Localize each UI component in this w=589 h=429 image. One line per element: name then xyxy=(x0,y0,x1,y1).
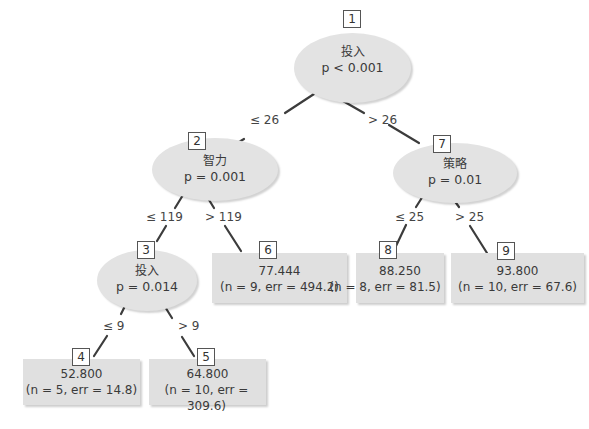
inner-node-1: 投入 p < 0.001 xyxy=(294,33,411,103)
leaf-stats: (n = 8, err = 81.5) xyxy=(326,279,444,295)
leaf-node-8: 88.250 (n = 8, err = 81.5) xyxy=(356,253,444,303)
leaf-mean: 88.250 xyxy=(356,263,444,279)
leaf-mean: 77.444 xyxy=(212,263,347,279)
node-id-1: 1 xyxy=(343,10,361,28)
leaf-node-6: 77.444 (n = 9, err = 494.2) xyxy=(212,253,347,303)
edge-label-3-4: ≤ 9 xyxy=(103,319,125,333)
node-p-value: p < 0.001 xyxy=(294,60,411,76)
node-id-5: 5 xyxy=(197,348,215,366)
leaf-stats: (n = 10, err = 309.6) xyxy=(147,382,266,414)
edge-label-3-5: > 9 xyxy=(178,319,200,333)
node-p-value: p = 0.001 xyxy=(152,169,278,185)
edge-2-6-lower xyxy=(225,226,241,251)
edge-7-8-lower xyxy=(396,225,406,246)
inner-node-2: 智力 p = 0.001 xyxy=(152,138,278,201)
node-variable: 智力 xyxy=(152,153,278,169)
node-id-4: 4 xyxy=(72,348,90,366)
edge-label-7-8: ≤ 25 xyxy=(395,210,424,224)
edge-2-3-lower xyxy=(157,226,166,241)
leaf-mean: 93.800 xyxy=(451,263,584,279)
inner-node-3: 投入 p = 0.014 xyxy=(97,250,197,311)
leaf-stats: (n = 5, err = 14.8) xyxy=(23,382,140,398)
leaf-stats: (n = 10, err = 67.6) xyxy=(451,279,584,295)
node-variable: 投入 xyxy=(294,44,411,60)
node-variable: 策略 xyxy=(393,156,517,172)
node-id-3: 3 xyxy=(137,241,155,259)
edge-label-1-2: ≤ 26 xyxy=(250,113,279,127)
edge-2-3 xyxy=(175,195,183,208)
inner-node-7: 策略 p = 0.01 xyxy=(393,143,517,203)
node-id-2: 2 xyxy=(188,132,206,150)
edge-3-4-lower xyxy=(94,336,107,356)
leaf-mean: 64.800 xyxy=(149,366,266,382)
node-id-9: 9 xyxy=(497,242,515,260)
edge-7-9-lower xyxy=(470,226,487,253)
edge-3-5-lower xyxy=(182,337,194,356)
node-variable: 投入 xyxy=(97,263,197,279)
node-id-7: 7 xyxy=(433,135,451,153)
edge-1-2 xyxy=(285,94,314,113)
node-p-value: p = 0.01 xyxy=(393,172,517,188)
edge-label-2-6: > 119 xyxy=(205,210,242,224)
node-p-value: p = 0.014 xyxy=(97,279,197,295)
edge-label-2-3: ≤ 119 xyxy=(146,210,183,224)
edge-1-7-lower xyxy=(389,125,419,143)
leaf-mean: 52.800 xyxy=(23,366,140,382)
node-id-8: 8 xyxy=(379,241,397,259)
leaf-node-9: 93.800 (n = 10, err = 67.6) xyxy=(451,253,584,303)
edge-label-1-7: > 26 xyxy=(368,113,397,127)
node-id-6: 6 xyxy=(259,241,277,259)
edge-label-7-9: > 25 xyxy=(455,210,484,224)
